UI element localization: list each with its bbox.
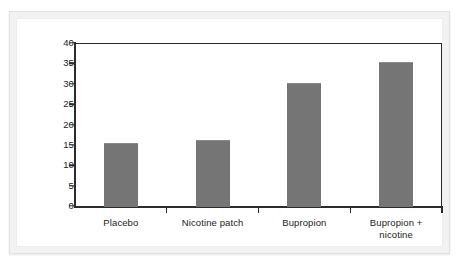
- y-tick-mark: [69, 185, 74, 186]
- y-tick-mark: [69, 63, 74, 64]
- x-axis-label: Placebo: [75, 217, 167, 229]
- bar: [379, 62, 413, 207]
- x-axis-label: Nicotine patch: [167, 217, 259, 229]
- y-tick-mark: [69, 42, 74, 43]
- bar: [196, 140, 230, 207]
- y-tick-mark: [69, 103, 74, 104]
- bar-chart: 0510152025303540 PlaceboNicotine patchBu…: [17, 19, 458, 262]
- bar: [104, 143, 138, 207]
- x-axis-label: Bupropion + nicotine: [350, 217, 442, 240]
- y-tick-mark: [69, 83, 74, 84]
- figure-frame: 0510152025303540 PlaceboNicotine patchBu…: [9, 11, 450, 254]
- x-tick-mark: [350, 207, 351, 213]
- y-axis-line: [74, 42, 76, 208]
- x-axis-label: Bupropion: [259, 217, 351, 229]
- x-tick-mark: [441, 207, 442, 213]
- x-tick-mark: [166, 207, 167, 213]
- figure-root: 0510152025303540 PlaceboNicotine patchBu…: [0, 0, 460, 267]
- bar: [287, 83, 321, 207]
- y-axis-ticks: 0510152025303540: [43, 19, 74, 262]
- figure-inner-panel: 0510152025303540 PlaceboNicotine patchBu…: [16, 18, 443, 247]
- y-tick-mark: [69, 165, 74, 166]
- y-tick-mark: [69, 124, 74, 125]
- y-tick-mark: [69, 205, 74, 206]
- y-tick-mark: [69, 144, 74, 145]
- x-tick-mark: [258, 207, 259, 213]
